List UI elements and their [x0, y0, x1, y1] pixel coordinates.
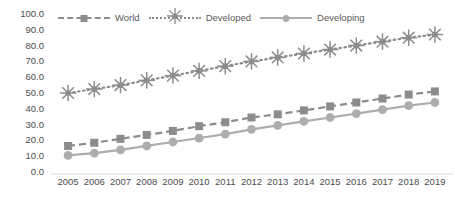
data-point-marker: [427, 26, 443, 42]
data-point-marker: [142, 142, 151, 151]
series-developed: [60, 26, 443, 101]
data-point-marker: [243, 53, 259, 69]
data-point-marker: [248, 113, 256, 121]
data-point-marker: [431, 98, 440, 107]
data-point-marker: [117, 135, 125, 143]
data-point-marker: [60, 85, 76, 101]
data-point-marker: [247, 125, 256, 134]
data-point-marker: [322, 41, 338, 57]
data-point-marker: [221, 130, 230, 139]
data-point-marker: [195, 122, 203, 130]
data-point-marker: [86, 81, 102, 97]
plot-area: [0, 0, 455, 202]
data-point-marker: [273, 121, 282, 130]
data-point-marker: [401, 30, 417, 46]
data-point-marker: [300, 117, 309, 126]
series-world: [64, 87, 439, 150]
data-point-marker: [404, 101, 413, 110]
data-point-marker: [352, 98, 360, 106]
data-point-marker: [348, 37, 364, 53]
data-point-marker: [296, 45, 312, 61]
data-point-marker: [191, 63, 207, 79]
data-point-marker: [90, 139, 98, 147]
data-point-marker: [300, 106, 308, 114]
data-point-marker: [116, 145, 125, 154]
data-point-marker: [139, 72, 155, 88]
data-point-marker: [64, 142, 72, 150]
data-point-marker: [379, 95, 387, 103]
data-point-marker: [90, 149, 99, 158]
data-point-marker: [217, 58, 233, 74]
data-point-marker: [431, 87, 439, 95]
data-point-marker: [274, 110, 282, 118]
data-point-marker: [169, 138, 178, 147]
chart-container: World Developed: [0, 0, 455, 202]
data-point-marker: [143, 131, 151, 139]
data-point-marker: [270, 49, 286, 65]
data-point-marker: [326, 102, 334, 110]
data-point-marker: [378, 105, 387, 114]
data-point-marker: [165, 67, 181, 83]
data-point-marker: [326, 113, 335, 122]
series-developing: [64, 98, 440, 160]
data-point-marker: [64, 151, 73, 160]
data-point-marker: [112, 77, 128, 93]
data-point-marker: [374, 33, 390, 49]
data-point-marker: [195, 134, 204, 143]
data-point-marker: [169, 127, 177, 135]
data-point-marker: [405, 91, 413, 99]
data-point-marker: [352, 109, 361, 118]
data-point-marker: [221, 118, 229, 126]
